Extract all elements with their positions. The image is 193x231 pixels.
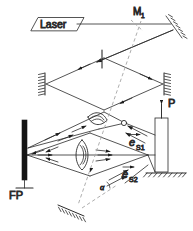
beam-mid-upper-right xyxy=(104,58,163,84)
sample-probe xyxy=(155,104,168,172)
mirror-m1-subscript: 1 xyxy=(141,12,145,19)
diagram-canvas: Laser M 1 xyxy=(0,0,193,231)
alpha-label: α xyxy=(100,183,105,192)
e-s2-subscript: S2 xyxy=(129,176,138,183)
beam-mid-upper-left xyxy=(46,58,104,84)
beam-mid-lower-right xyxy=(104,84,163,110)
scatter-point xyxy=(121,120,126,125)
mirror-mid-left xyxy=(39,73,46,95)
beam-mid-lower-left xyxy=(46,84,104,110)
probe-label: P xyxy=(168,97,175,109)
axis-direction-arrows xyxy=(90,157,95,172)
beam-return-fp xyxy=(32,147,58,162)
beam-m1-return xyxy=(97,30,173,62)
mirror-bottom xyxy=(58,205,86,222)
e-s1-subscript: S1 xyxy=(136,144,145,151)
laser-label: Laser xyxy=(40,18,67,30)
optical-diagram: Laser M 1 xyxy=(0,0,193,231)
e-s2-label: e xyxy=(122,168,128,180)
mirror-top-right xyxy=(166,15,187,39)
e-s1-label: e xyxy=(129,136,135,148)
fabry-perot-label: FP xyxy=(9,189,23,201)
ground-hatching xyxy=(144,173,187,177)
mirror-mid-right xyxy=(164,73,171,95)
beam-bundle-upper xyxy=(28,112,125,148)
